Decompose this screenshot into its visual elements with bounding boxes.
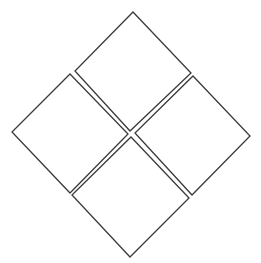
diamond-diagram — [0, 0, 261, 263]
